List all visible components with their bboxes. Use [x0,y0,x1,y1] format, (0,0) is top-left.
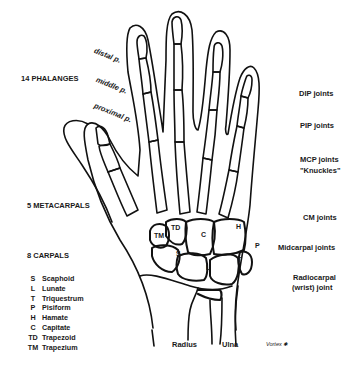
artist-signature: Vortex ✱ [266,341,288,347]
carpal-legend-row: LLunate [24,284,84,294]
carpal-name: Scaphoid [42,274,74,284]
carpal-legend-row: CCapitate [24,323,84,333]
bone-tag-pisiform: P [255,242,260,249]
carpal-name: Pisiform [42,303,71,313]
bone-tag-lunate: L [206,264,210,271]
bone-tag-trapezoid: TD [171,224,180,231]
carpal-abbr: C [24,323,42,333]
carpal-legend-row: PPisiform [24,303,84,313]
metacarpals-label: 5 METACARPALS [27,201,90,210]
carpal-abbr: L [24,284,42,294]
carpal-name: Trapezoid [42,333,76,343]
carpal-name: Triquestrum [42,294,84,304]
carpal-legend-row: TTriquestrum [24,294,84,304]
carpal-legend-row: SScaphoid [24,274,84,284]
carpal-legend-row: TMTrapezium [24,343,84,353]
carpal-legend-row: HHamate [24,313,84,323]
carpal-name: Trapezium [42,343,78,353]
bone-tag-scaphoid: S [176,250,181,257]
mcp-joints-label: MCP joints [300,155,339,164]
wrist-joint-label: (wrist) joint [292,283,332,292]
carpals-label: 8 CARPALS [27,251,69,260]
bone-tag-trapezium: TM [154,232,164,239]
radiocarpal-label: Radiocarpal [293,273,336,282]
carpal-abbr: P [24,303,42,313]
carpal-name: Hamate [42,313,68,323]
carpal-legend: SScaphoid LLunate TTriquestrum PPisiform… [24,274,84,352]
bone-tag-hamate: H [236,223,241,230]
bone-tag-capitate: C [201,231,206,238]
midcarpal-joints-label: Midcarpal joints [278,243,335,252]
ulna-label: Ulna [222,340,238,349]
cm-joints-label: CM joints [303,213,337,222]
carpal-legend-row: TDTrapezoid [24,333,84,343]
phalanges-label: 14 PHALANGES [21,74,79,83]
carpal-abbr: TD [24,333,42,343]
carpal-abbr: H [24,313,42,323]
radius-label: Radius [172,340,197,349]
pip-joints-label: PIP joints [300,121,334,130]
dip-joints-label: DIP joints [299,89,333,98]
bone-tag-triquetrum: T [237,256,241,263]
knuckles-label: "Knuckles" [300,166,340,175]
carpal-abbr: TM [24,343,42,353]
carpal-name: Capitate [42,323,70,333]
carpal-abbr: S [24,274,42,284]
carpal-name: Lunate [42,284,66,294]
carpal-abbr: T [24,294,42,304]
